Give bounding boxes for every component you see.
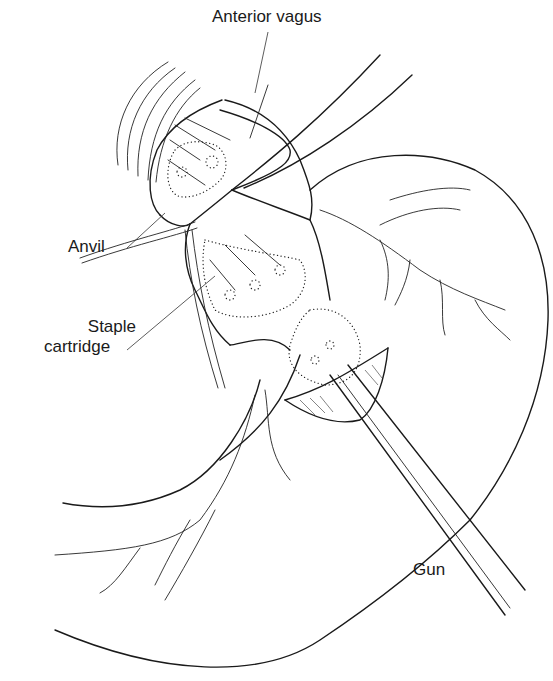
label-staple: Staple	[56, 318, 136, 337]
leader-lines	[127, 32, 268, 350]
label-anterior-vagus: Anterior vagus	[212, 8, 322, 27]
label-anvil: Anvil	[68, 238, 105, 257]
staple-cartridge-region	[185, 190, 360, 385]
anvil-region	[150, 100, 290, 226]
stomach-outline	[55, 155, 548, 667]
illustration: Anterior vagus Anvil Staple cartridge Gu…	[0, 0, 553, 681]
label-cartridge: cartridge	[44, 338, 110, 357]
vagus-nerves	[225, 55, 412, 220]
diaphragm-arcs	[117, 62, 200, 182]
label-gun: Gun	[413, 561, 445, 580]
